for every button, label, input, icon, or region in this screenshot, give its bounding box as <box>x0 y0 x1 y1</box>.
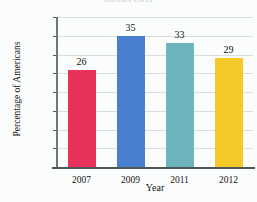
bar-value-label: 29 <box>209 44 249 55</box>
gridline <box>57 36 253 37</box>
plot-area: 5%10%15%20%25%30%35%40% 26353329 2007200… <box>57 17 253 167</box>
bar <box>166 43 194 167</box>
bar <box>68 70 96 168</box>
bar-chart-figure: Internet Users Percentage of Americans 5… <box>0 0 257 202</box>
y-axis-line <box>56 17 58 167</box>
y-axis-title: Percentage of Americans <box>12 14 22 164</box>
bar-value-label: 35 <box>111 22 151 33</box>
bar-value-label: 33 <box>160 29 200 40</box>
bar-value-label: 26 <box>62 56 102 67</box>
gridline <box>57 17 253 18</box>
chart-title: Internet Users <box>0 0 257 2</box>
x-axis-title: Year <box>57 182 253 193</box>
bar <box>117 36 145 167</box>
x-axis-line <box>52 167 255 169</box>
bar <box>215 58 243 167</box>
